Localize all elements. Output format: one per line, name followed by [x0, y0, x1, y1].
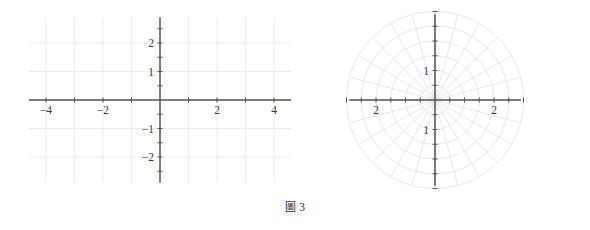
figure-container: −4−22421−1−2 2211 圖3	[0, 0, 590, 230]
polar-x-tick-label: 2	[491, 104, 497, 116]
cartesian-axes	[29, 17, 291, 182]
cartesian-y-tick-label: −1	[142, 123, 154, 135]
cartesian-x-tick-label: −2	[97, 104, 109, 116]
polar-y-tick-label: 1	[423, 65, 429, 77]
cartesian-plot: −4−22421−1−2	[0, 0, 300, 200]
cartesian-y-tick-label: 2	[148, 37, 154, 49]
polar-y-tick-label: 1	[423, 124, 429, 136]
polar-plot-canvas: 2211	[295, 0, 590, 200]
cartesian-y-tick-label: −2	[142, 151, 154, 163]
cartesian-y-tick-label: 1	[148, 66, 154, 78]
figure-caption-glyph: 圖	[285, 201, 297, 214]
cartesian-x-tick-label: 4	[271, 104, 277, 116]
figure-caption: 圖3	[0, 198, 590, 214]
polar-plot: 2211	[295, 0, 590, 200]
figure-caption-number: 3	[299, 201, 305, 213]
cartesian-plot-canvas: −4−22421−1−2	[0, 0, 300, 200]
cartesian-x-tick-label: 2	[214, 104, 220, 116]
polar-x-tick-label: 2	[373, 104, 379, 116]
cartesian-x-tick-label: −4	[40, 104, 52, 116]
